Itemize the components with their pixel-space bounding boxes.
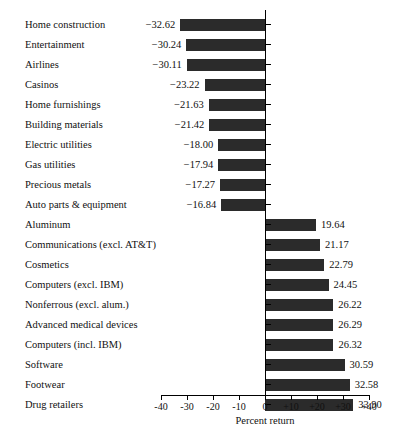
value-label: −16.84	[161, 195, 216, 215]
category-label: Home furnishings	[25, 95, 101, 115]
chart-row: Electric utilities−18.00	[0, 135, 416, 155]
category-label: Building materials	[25, 115, 103, 135]
chart-row: Home construction−32.62	[0, 15, 416, 35]
axis-tick-label: +40	[349, 401, 389, 412]
value-label: −32.62	[120, 15, 175, 35]
chart-row: Building materials−21.42	[0, 115, 416, 135]
zero-baseline-axis	[265, 10, 266, 395]
value-label: −21.63	[149, 95, 204, 115]
bar	[265, 299, 333, 311]
value-label: −17.94	[158, 155, 213, 175]
category-label: Footwear	[25, 375, 65, 395]
category-label: Software	[25, 355, 63, 375]
value-label: −21.42	[149, 115, 204, 135]
category-label: Nonferrous (excl. alum.)	[25, 295, 129, 315]
value-label: −17.27	[160, 175, 215, 195]
bar	[209, 99, 265, 111]
category-label: Precious metals	[25, 175, 91, 195]
chart-row: Aluminum19.64	[0, 215, 416, 235]
bar	[265, 239, 320, 251]
percent-return-bar-chart: Home construction−32.62Entertainment−30.…	[0, 0, 416, 436]
category-label: Computers (incl. IBM)	[25, 335, 122, 355]
chart-row: Entertainment−30.24	[0, 35, 416, 55]
bar	[265, 319, 333, 331]
category-label: Communications (excl. AT&T)	[25, 235, 156, 255]
category-label: Airlines	[25, 55, 59, 75]
bar	[265, 339, 333, 351]
chart-row: Auto parts & equipment−16.84	[0, 195, 416, 215]
category-label: Auto parts & equipment	[25, 195, 127, 215]
value-label: 24.45	[334, 275, 358, 295]
value-label: −30.11	[127, 55, 182, 75]
axis-tick	[317, 395, 318, 400]
axis-tick	[161, 395, 162, 400]
bar	[218, 159, 265, 171]
value-label: −23.22	[145, 75, 200, 95]
x-axis-title: Percent return	[205, 415, 325, 426]
axis-tick	[265, 395, 266, 400]
value-label: 32.58	[355, 375, 379, 395]
chart-row: Footwear32.58	[0, 375, 416, 395]
bar	[265, 359, 345, 371]
bar	[265, 279, 329, 291]
category-label: Computers (excl. IBM)	[25, 275, 123, 295]
category-label: Cosmetics	[25, 255, 69, 275]
bar	[186, 39, 265, 51]
chart-row: Advanced medical devices26.29	[0, 315, 416, 335]
value-label: 26.29	[338, 315, 362, 335]
bar	[187, 59, 265, 71]
chart-row: Computers (excl. IBM)24.45	[0, 275, 416, 295]
bar	[220, 179, 265, 191]
chart-row: Cosmetics22.79	[0, 255, 416, 275]
value-label: 21.17	[325, 235, 349, 255]
chart-row: Casinos−23.22	[0, 75, 416, 95]
axis-tick	[239, 395, 240, 400]
category-label: Home construction	[25, 15, 105, 35]
chart-row: Precious metals−17.27	[0, 175, 416, 195]
bar	[218, 139, 265, 151]
bar	[265, 259, 324, 271]
chart-row: Software30.59	[0, 355, 416, 375]
chart-row: Gas utilities−17.94	[0, 155, 416, 175]
category-label: Gas utilities	[25, 155, 75, 175]
axis-tick	[291, 395, 292, 400]
bar	[221, 199, 265, 211]
category-label: Electric utilities	[25, 135, 92, 155]
value-label: 26.22	[338, 295, 362, 315]
bar	[205, 79, 265, 91]
value-label: 22.79	[329, 255, 353, 275]
category-label: Advanced medical devices	[25, 315, 138, 335]
value-label: −18.00	[158, 135, 213, 155]
bar	[265, 379, 350, 391]
chart-row: Airlines−30.11	[0, 55, 416, 75]
category-label: Casinos	[25, 75, 58, 95]
value-label: −30.24	[126, 35, 181, 55]
chart-row: Nonferrous (excl. alum.)26.22	[0, 295, 416, 315]
axis-tick	[213, 395, 214, 400]
bar	[180, 19, 265, 31]
value-label: 30.59	[350, 355, 374, 375]
category-label: Aluminum	[25, 215, 71, 235]
value-label: 19.64	[321, 215, 345, 235]
bar	[265, 219, 316, 231]
category-label: Entertainment	[25, 35, 84, 55]
chart-row: Home furnishings−21.63	[0, 95, 416, 115]
category-label: Drug retailers	[25, 395, 83, 415]
axis-tick	[343, 395, 344, 400]
axis-tick	[369, 395, 370, 400]
axis-tick	[187, 395, 188, 400]
bar	[209, 119, 265, 131]
chart-row: Communications (excl. AT&T)21.17	[0, 235, 416, 255]
chart-row: Computers (incl. IBM)26.32	[0, 335, 416, 355]
value-label: 26.32	[338, 335, 362, 355]
